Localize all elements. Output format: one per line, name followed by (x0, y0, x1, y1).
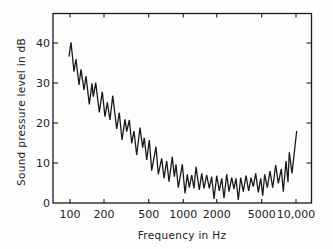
y-tick-label: 20 (36, 117, 50, 130)
x-tick-label: 200 (94, 208, 115, 221)
y-tick-label: 10 (36, 157, 50, 170)
spl-curve (69, 42, 297, 200)
y-tick-label: 40 (36, 37, 50, 50)
y-tick-label: 0 (43, 197, 50, 210)
y-axis-label: Sound pressure level in dB (15, 38, 27, 186)
y-tick-label: 30 (36, 77, 50, 90)
chart: 10020050010002000500010,000 010203040 Fr… (0, 0, 333, 249)
x-axis-ticks: 10020050010002000500010,000 (60, 14, 316, 222)
x-tick-label: 2000 (203, 208, 231, 221)
y-axis-ticks: 010203040 (36, 37, 312, 210)
x-axis-label: Frequency in Hz (138, 229, 227, 241)
x-tick-label: 500 (138, 208, 159, 221)
x-tick-label: 100 (60, 208, 81, 221)
x-tick-label: 1000 (169, 208, 197, 221)
plot-frame (53, 14, 312, 204)
x-tick-label: 10,000 (277, 208, 316, 221)
x-tick-label: 5000 (248, 208, 276, 221)
